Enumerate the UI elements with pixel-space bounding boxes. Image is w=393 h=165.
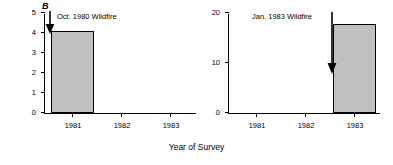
y-tick-label-0: 0 xyxy=(32,108,36,117)
wildfire-annotation-right: Jan. 1983 Wildfire xyxy=(252,12,312,21)
y-tick-label-20-right: 20 xyxy=(212,8,220,17)
bar-1983 xyxy=(333,24,376,113)
plot-area-right: 0 10 20 1981 1982 1983 xyxy=(228,14,380,114)
y-tick-1: 1 xyxy=(41,92,45,93)
wildfire-arrow-icon-right xyxy=(325,11,339,76)
x-tick-label-1981: 1981 xyxy=(65,121,82,130)
wildfire-annotation-left: Oct. 1980 Wildfire xyxy=(57,12,117,21)
x-tick-label-1983-right: 1983 xyxy=(347,121,364,130)
x-tick-1983: 1983 xyxy=(170,113,171,117)
chart-panel-right: 0 10 20 1981 1982 1983 xyxy=(200,0,393,165)
y-tick-label-10-right: 10 xyxy=(212,58,220,67)
y-tick-3: 3 xyxy=(41,52,45,53)
x-tick-1982: 1982 xyxy=(121,113,122,117)
x-tick-1981-right: 1981 xyxy=(256,113,257,117)
y-tick-label-2: 2 xyxy=(32,68,36,77)
y-tick-label-4: 4 xyxy=(32,28,36,37)
x-tick-label-1983: 1983 xyxy=(163,121,180,130)
x-tick-label-1981-right: 1981 xyxy=(249,121,266,130)
x-tick-label-1982: 1982 xyxy=(114,121,131,130)
chart-panel-left: B 0 1 2 3 4 5 1981 xyxy=(0,0,200,165)
y-tick-10-right: 10 xyxy=(225,62,229,63)
y-tick-0-right: 0 xyxy=(225,112,229,113)
x-tick-1982-right: 1982 xyxy=(305,113,306,117)
x-tick-1981: 1981 xyxy=(72,113,73,117)
plot-area-left: 0 1 2 3 4 5 1981 1982 xyxy=(44,14,196,114)
y-tick-2: 2 xyxy=(41,72,45,73)
y-tick-0: 0 xyxy=(41,112,45,113)
x-tick-label-1982-right: 1982 xyxy=(298,121,315,130)
y-tick-label-0-right: 0 xyxy=(216,108,220,117)
x-tick-1983-right: 1983 xyxy=(354,113,355,117)
y-tick-20-right: 20 xyxy=(225,12,229,13)
y-tick-label-3: 3 xyxy=(32,48,36,57)
y-tick-label-1: 1 xyxy=(32,88,36,97)
wildfire-arrow-icon xyxy=(43,10,57,36)
bar-1981 xyxy=(51,31,94,113)
y-tick-label-5: 5 xyxy=(32,8,36,17)
x-axis-title: Year of Survey xyxy=(0,142,393,153)
figure-panel-b: B 0 1 2 3 4 5 1981 xyxy=(0,0,393,165)
